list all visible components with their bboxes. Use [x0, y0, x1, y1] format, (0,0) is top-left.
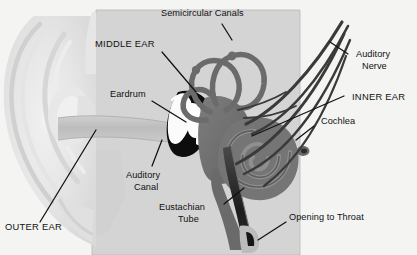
label-opening-to-throat: Opening to Throat [289, 212, 364, 223]
label-auditory-nerve-line2: Nerve [362, 61, 387, 72]
label-auditory-canal-line2: Canal [134, 182, 158, 193]
label-outer-ear: OUTER EAR [5, 221, 62, 232]
label-eustachian-tube-line1: Eustachian [159, 202, 205, 213]
label-eustachian-tube-line2: Tube [178, 214, 199, 225]
ear-anatomy-diagram: Semicircular Canals MIDDLE EAR Eardrum A… [0, 0, 417, 255]
label-cochlea: Cochlea [321, 116, 355, 127]
label-semicircular-canals: Semicircular Canals [161, 8, 244, 19]
label-auditory-canal-line1: Auditory [126, 170, 160, 181]
label-middle-ear: MIDDLE EAR [95, 38, 155, 49]
label-inner-ear: INNER EAR [352, 91, 405, 102]
label-eardrum: Eardrum [110, 89, 146, 100]
label-auditory-nerve-line1: Auditory [356, 49, 390, 60]
